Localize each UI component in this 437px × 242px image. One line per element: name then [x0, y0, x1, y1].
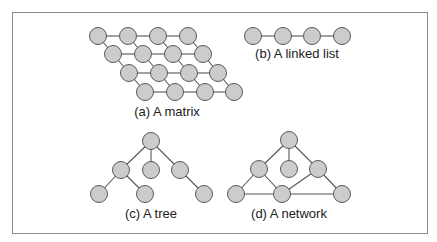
network-node [310, 161, 327, 178]
matrix-node [105, 46, 122, 63]
tree-node [143, 133, 160, 150]
caption-tree: (c) A tree [125, 207, 177, 221]
linked-list-node [245, 28, 262, 45]
matrix-node [197, 84, 214, 101]
tree-node [137, 186, 154, 203]
matrix-node [121, 65, 138, 82]
matrix-node [135, 46, 152, 63]
diagram-canvas [0, 0, 437, 242]
matrix-node [165, 46, 182, 63]
panel-network [228, 132, 351, 203]
caption-linked-list: (b) A linked list [255, 47, 339, 61]
matrix-node [180, 28, 197, 45]
matrix-node [181, 65, 198, 82]
panel-matrix [90, 28, 243, 101]
matrix-node [150, 28, 167, 45]
tree-node [143, 162, 160, 179]
network-node [281, 161, 298, 178]
matrix-node [195, 46, 212, 63]
network-node [334, 186, 351, 203]
network-node [228, 186, 245, 203]
caption-matrix: (a) A matrix [134, 105, 200, 119]
caption-network: (d) A network [251, 207, 327, 221]
matrix-node [226, 84, 243, 101]
panel-tree [91, 133, 213, 203]
linked-list-node [304, 28, 321, 45]
tree-node [172, 162, 189, 179]
tree-node [196, 186, 213, 203]
tree-node [91, 186, 108, 203]
network-node [281, 132, 298, 149]
matrix-node [167, 84, 184, 101]
network-node [274, 186, 291, 203]
network-node [251, 161, 268, 178]
linked-list-node [275, 28, 292, 45]
matrix-node [120, 28, 137, 45]
panel-linked-list [245, 28, 351, 45]
tree-node [113, 162, 130, 179]
linked-list-node [334, 28, 351, 45]
matrix-node [90, 28, 107, 45]
matrix-node [210, 65, 227, 82]
matrix-node [137, 84, 154, 101]
matrix-node [151, 65, 168, 82]
